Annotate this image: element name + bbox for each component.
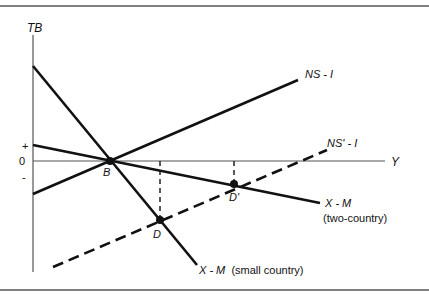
point-b-label: B	[103, 167, 110, 178]
xm-two-country-curve	[33, 145, 320, 203]
tick-zero: 0	[19, 156, 25, 167]
point-d-prime-label: D'	[229, 192, 239, 203]
x-axis-label: Y	[391, 156, 399, 168]
xm-two-country-label: X - M	[325, 198, 351, 209]
point-d	[156, 216, 164, 224]
diagram-canvas	[0, 0, 429, 294]
point-b	[106, 157, 114, 165]
xm-small-country-label-curve: X - M	[199, 264, 225, 276]
point-d-prime	[230, 180, 238, 188]
xm-small-country-label-note: (small country)	[225, 264, 303, 276]
xm-two-country-sublabel: (two-country)	[323, 213, 387, 224]
trade-balance-diagram: TB + 0 - Y B D D' NS - I NS' - I X - M (…	[0, 0, 429, 294]
point-d-label: D	[153, 229, 161, 240]
tick-plus: +	[22, 141, 28, 152]
ns-i-label: NS - I	[305, 69, 333, 80]
ns-i-curve	[33, 80, 298, 194]
ns-prime-i-label: NS' - I	[327, 138, 357, 149]
xm-small-country-curve	[33, 66, 197, 265]
xm-small-country-label: X - M (small country)	[199, 265, 304, 276]
y-axis-label: TB	[27, 22, 42, 34]
tick-minus: -	[22, 172, 26, 183]
